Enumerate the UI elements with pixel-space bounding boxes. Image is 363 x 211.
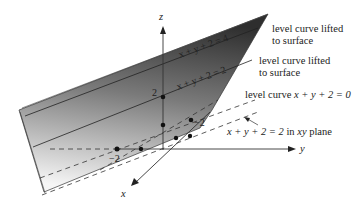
z-arrow-icon — [160, 26, 166, 34]
annotation-arrow-icon — [244, 117, 258, 125]
annotation-lifted-2: level curve lifted to surface — [259, 55, 331, 78]
annotation-lifted-1: level curve lifted to surface — [272, 23, 344, 46]
x-arrow-icon — [131, 178, 139, 186]
svg-text:to surface: to surface — [259, 67, 300, 78]
svg-text:level curve lifted: level curve lifted — [259, 55, 331, 66]
y-arrow-icon — [288, 146, 296, 152]
svg-text:level curve lifted: level curve lifted — [272, 23, 344, 34]
z-axis-label: z — [158, 11, 163, 22]
level-curves-diagram: x + y + 2 = 4 x + y + 2 = 2 z y x 2 −2 — [0, 0, 363, 211]
x-tick-label: −2 — [109, 153, 120, 164]
y-tick-label: −2 — [194, 117, 205, 128]
z-tick-label: 2 — [152, 87, 157, 98]
plane-surface — [17, 13, 268, 193]
annotation-xy-plane: x + y + 2 = 2 in xy plane — [226, 126, 332, 137]
y-axis-label: y — [299, 143, 305, 154]
annotation-level0: level curve x + y + 2 = 0 — [245, 89, 352, 100]
x-axis-label: x — [120, 188, 126, 199]
svg-text:to surface: to surface — [272, 35, 313, 46]
